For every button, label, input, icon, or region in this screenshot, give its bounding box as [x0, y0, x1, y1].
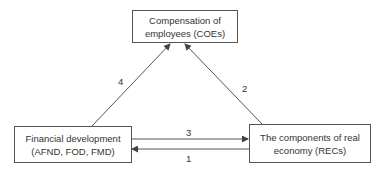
node-coe-line1: Compensation of: [149, 14, 221, 27]
node-compensation-of-employees: Compensation of employees (COEs): [132, 10, 238, 43]
node-fd-line1: Financial development: [25, 132, 120, 145]
node-coe-line2: employees (COEs): [145, 27, 225, 40]
edge-4-label: 4: [118, 76, 123, 87]
node-real-economy-components: The components of real economy (RECs): [249, 124, 371, 163]
edge-3-label: 3: [186, 127, 191, 138]
edge-4-arrow: [92, 44, 170, 126]
edge-1-label: 1: [186, 153, 191, 164]
edge-2-label: 2: [242, 83, 247, 94]
node-rec-line2: economy (RECs): [274, 144, 346, 157]
edge-2-arrow: [185, 44, 262, 124]
node-fd-line2: (AFND, FOD, FMD): [31, 145, 114, 158]
node-financial-development: Financial development (AFND, FOD, FMD): [14, 126, 132, 163]
node-rec-line1: The components of real: [260, 131, 360, 144]
